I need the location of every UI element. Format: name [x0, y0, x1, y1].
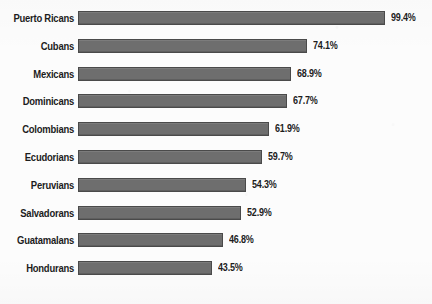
bar-row: Dominicans67.7%: [0, 90, 432, 112]
category-label: Dominicans: [9, 90, 74, 112]
bar-value-label: 46.8%: [229, 229, 254, 251]
bar-value-label: 74.1%: [313, 35, 338, 57]
bar-row: Mexicans68.9%: [0, 63, 432, 85]
bar-fill: [78, 261, 212, 275]
bar-row: Colombians61.9%: [0, 118, 432, 140]
bar-row: Hondurans43.5%: [0, 257, 432, 279]
bar-fill: [78, 178, 246, 192]
category-label: Hondurans: [9, 257, 74, 279]
bar-row: Ecudorians59.7%: [0, 146, 432, 168]
category-label: Salvadorans: [9, 202, 74, 224]
bar-fill: [78, 39, 307, 53]
bar-fill: [78, 94, 287, 108]
bar-fill: [78, 11, 385, 25]
bar-row: Peruvians54.3%: [0, 174, 432, 196]
category-label: Ecudorians: [9, 146, 74, 168]
bar-value-label: 59.7%: [268, 146, 293, 168]
bar-track: [78, 39, 307, 53]
category-label: Guatamalans: [9, 229, 74, 251]
bar-track: [78, 150, 262, 164]
bar-fill: [78, 233, 223, 247]
bar-fill: [78, 122, 269, 136]
bar-track: [78, 11, 385, 25]
bar-track: [78, 67, 291, 81]
bar-row: Salvadorans52.9%: [0, 202, 432, 224]
bar-track: [78, 261, 212, 275]
bar-value-label: 99.4%: [391, 7, 416, 29]
bar-track: [78, 233, 223, 247]
bar-chart: Puerto Ricans99.4%Cubans74.1%Mexicans68.…: [0, 0, 432, 304]
bar-track: [78, 206, 241, 220]
bar-track: [78, 94, 287, 108]
bar-fill: [78, 67, 291, 81]
category-label: Peruvians: [9, 174, 74, 196]
bar-value-label: 52.9%: [247, 202, 272, 224]
bar-row: Cubans74.1%: [0, 35, 432, 57]
bar-row: Guatamalans46.8%: [0, 229, 432, 251]
category-label: Cubans: [9, 35, 74, 57]
category-label: Colombians: [9, 118, 74, 140]
bar-value-label: 54.3%: [252, 174, 277, 196]
bar-value-label: 68.9%: [297, 63, 322, 85]
bar-value-label: 61.9%: [275, 118, 300, 140]
category-label: Mexicans: [9, 63, 74, 85]
bar-value-label: 43.5%: [218, 257, 243, 279]
bar-fill: [78, 150, 262, 164]
bar-track: [78, 178, 246, 192]
category-label: Puerto Ricans: [9, 7, 74, 29]
bar-fill: [78, 206, 241, 220]
bar-value-label: 67.7%: [293, 90, 318, 112]
bar-track: [78, 122, 269, 136]
bar-row: Puerto Ricans99.4%: [0, 7, 432, 29]
